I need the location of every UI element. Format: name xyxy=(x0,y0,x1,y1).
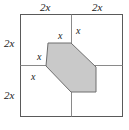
label-hex-left-x: x xyxy=(37,52,41,62)
figure-canvas xyxy=(0,0,129,130)
label-hex-upper-right-x: x xyxy=(76,26,80,36)
label-hex-lower-left-x: x xyxy=(31,72,35,82)
label-hex-top-x: x xyxy=(58,31,62,41)
label-top-left-2x: 2x xyxy=(40,2,50,13)
geometry-figure: 2x 2x 2x 2x x x x x xyxy=(0,0,129,130)
label-left-lower-2x: 2x xyxy=(4,90,14,101)
label-left-upper-2x: 2x xyxy=(4,38,14,49)
label-top-right-2x: 2x xyxy=(92,2,102,13)
